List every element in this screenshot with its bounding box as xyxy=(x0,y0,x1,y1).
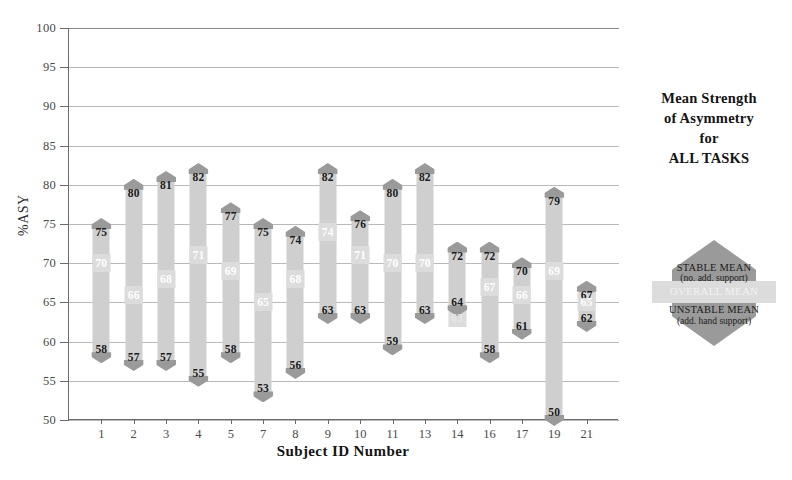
bar-group[interactable]: 757058 xyxy=(93,218,110,363)
y-axis-tick xyxy=(60,67,69,68)
x-axis-tick-label: 17 xyxy=(516,427,529,442)
x-axis-tick-label: 14 xyxy=(451,427,464,442)
gridline xyxy=(69,185,619,186)
bar-unstable-mean-value: 59 xyxy=(387,335,399,347)
y-axis-tick-label: 80 xyxy=(43,177,56,192)
gridline xyxy=(69,263,619,264)
chart-title-line-4: ALL TASKS xyxy=(626,148,792,168)
gridline xyxy=(69,302,619,303)
bar-stable-mean-value: 79 xyxy=(548,195,560,207)
bar-band xyxy=(481,248,498,358)
bar-stable-mean-value: 82 xyxy=(192,171,204,183)
y-axis-tick-label: 70 xyxy=(43,256,56,271)
x-axis-tick-label: 2 xyxy=(131,427,137,442)
gridline xyxy=(69,381,619,382)
bar-unstable-mean-value: 56 xyxy=(290,359,302,371)
x-axis-tick-label: 11 xyxy=(386,427,398,442)
y-axis-tick xyxy=(60,420,69,421)
x-axis-tick xyxy=(166,419,167,424)
y-axis-tick xyxy=(60,106,69,107)
bar-overall-mean-value: 74 xyxy=(322,226,334,238)
legend: STABLE MEAN (no. add. support) OVERALL M… xyxy=(652,240,776,346)
bar-group[interactable]: 807059 xyxy=(384,179,401,356)
bar-stable-mean-value: 75 xyxy=(95,226,107,238)
bar-group[interactable]: 827063 xyxy=(416,163,433,324)
bar-overall-mean-value: 68 xyxy=(290,273,302,285)
y-axis-tick-label: 95 xyxy=(43,60,56,75)
x-axis-tick xyxy=(490,419,491,424)
y-axis-title: %ASY xyxy=(16,194,32,236)
x-axis-tick-label: 8 xyxy=(292,427,298,442)
bar-overall-mean-value: 71 xyxy=(354,249,366,261)
bar-overall-mean-value: 68 xyxy=(160,273,172,285)
y-axis-tick-label: 100 xyxy=(36,21,56,36)
chart-figure: %ASY 50556065707580859095100175705828066… xyxy=(0,0,792,480)
bar-band xyxy=(416,169,433,318)
bar-overall-mean-value: 66 xyxy=(128,289,140,301)
bar-group[interactable]: 706661 xyxy=(513,257,530,340)
y-axis-tick xyxy=(60,224,69,225)
bar-band xyxy=(125,185,142,365)
gridline xyxy=(69,224,619,225)
bar-unstable-mean-value: 58 xyxy=(484,343,496,355)
bar-group[interactable]: 726758 xyxy=(481,242,498,364)
bar-group[interactable]: 746856 xyxy=(287,226,304,379)
x-axis-tick xyxy=(360,419,361,424)
x-axis-tick xyxy=(231,419,232,424)
chart-title-line-1: Mean Strength xyxy=(626,88,792,108)
x-axis-tick-label: 4 xyxy=(195,427,201,442)
bar-unstable-mean-value: 50 xyxy=(548,406,560,418)
bar-group[interactable]: 756553 xyxy=(255,218,272,402)
legend-unstable-sublabel: (add. hand support) xyxy=(652,316,776,326)
x-axis-tick-label: 5 xyxy=(228,427,234,442)
bar-unstable-mean-value: 57 xyxy=(160,351,172,363)
x-axis-tick-label: 7 xyxy=(260,427,266,442)
bar-group[interactable]: 676562 xyxy=(578,281,595,332)
bar-unstable-mean-value: 57 xyxy=(128,351,140,363)
bar-band xyxy=(190,169,207,381)
y-axis-tick-label: 75 xyxy=(43,217,56,232)
bar-group[interactable]: 726364 xyxy=(449,242,466,317)
bar-band xyxy=(287,232,304,373)
x-axis-tick-label: 13 xyxy=(419,427,432,442)
gridline xyxy=(69,67,619,68)
x-axis-tick-label: 21 xyxy=(580,427,593,442)
y-axis-tick xyxy=(60,28,69,29)
bar-group[interactable]: 827463 xyxy=(319,163,336,324)
x-axis-tick xyxy=(263,419,264,424)
bar-group[interactable]: 796950 xyxy=(546,187,563,426)
x-axis-tick xyxy=(522,419,523,424)
bar-stable-mean-value: 82 xyxy=(419,171,431,183)
bar-band xyxy=(93,224,110,357)
bar-stable-mean-value: 72 xyxy=(451,250,463,262)
y-axis-tick-label: 50 xyxy=(43,413,56,428)
bar-unstable-mean-value: 61 xyxy=(516,320,528,332)
bar-group[interactable]: 816857 xyxy=(158,171,175,371)
bar-stable-mean-value: 72 xyxy=(484,250,496,262)
gridline xyxy=(69,146,619,147)
gridline xyxy=(69,342,619,343)
bar-overall-mean-value: 65 xyxy=(257,296,269,308)
bar-overall-mean-value: 65 xyxy=(581,296,593,308)
bar-group[interactable]: 806657 xyxy=(125,179,142,371)
bar-stable-mean-value: 81 xyxy=(160,179,172,191)
bar-overall-mean-value: 70 xyxy=(419,257,431,269)
bar-overall-mean-value: 63 xyxy=(451,312,463,324)
legend-stable-label: STABLE MEAN xyxy=(652,262,776,273)
bar-overall-mean-value: 67 xyxy=(484,281,496,293)
x-axis-tick xyxy=(134,419,135,424)
bar-group[interactable]: 776958 xyxy=(222,202,239,363)
bar-group[interactable]: 767163 xyxy=(352,210,369,324)
y-axis-tick-label: 55 xyxy=(43,373,56,388)
bar-unstable-mean-value: 58 xyxy=(95,343,107,355)
bar-unstable-mean-value: 55 xyxy=(192,367,204,379)
bar-group[interactable]: 827155 xyxy=(190,163,207,387)
bar-stable-mean-value: 74 xyxy=(290,234,302,246)
legend-overall-label: OVERALL MEAN xyxy=(652,285,776,297)
y-axis-tick xyxy=(60,263,69,264)
y-axis-tick-label: 90 xyxy=(43,99,56,114)
bar-overall-mean-value: 69 xyxy=(225,265,237,277)
bar-stable-mean-value: 77 xyxy=(225,210,237,222)
y-axis-tick-label: 85 xyxy=(43,138,56,153)
x-axis-tick-label: 16 xyxy=(483,427,496,442)
